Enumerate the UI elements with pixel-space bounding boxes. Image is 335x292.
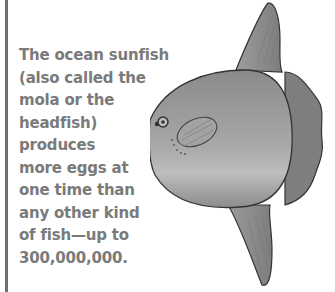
left-border-rule — [5, 0, 8, 292]
sunfish-illustration-icon — [150, 0, 335, 292]
